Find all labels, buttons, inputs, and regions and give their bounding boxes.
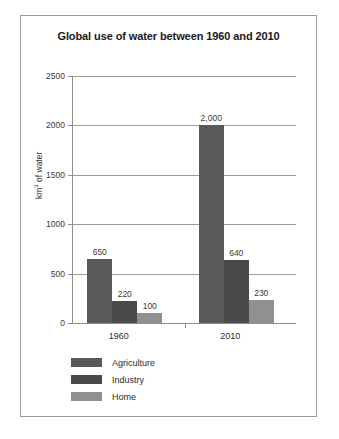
y-tick-label: 2000 <box>46 120 65 130</box>
legend-swatch-home <box>71 392 102 401</box>
gridline <box>73 224 296 225</box>
bar-home-1960: 100 <box>137 313 162 323</box>
bar-value-label: 2,000 <box>201 113 222 123</box>
x-tick-label-1960: 1960 <box>109 331 129 341</box>
legend-label-agriculture: Agriculture <box>112 358 155 368</box>
x-tick-label-2010: 2010 <box>220 331 240 341</box>
y-tick-mark <box>68 274 73 275</box>
bar-industry-1960: 220 <box>112 301 137 323</box>
y-axis-line <box>72 76 73 323</box>
gridline <box>73 125 296 126</box>
y-axis-title-exponent: 3 <box>33 184 39 187</box>
gridline <box>73 175 296 176</box>
bar-home-2010: 230 <box>249 300 274 323</box>
bar-value-label: 220 <box>118 289 132 299</box>
y-axis-title-suffix: of water <box>34 152 44 185</box>
bar-agriculture-2010: 2,000 <box>199 125 224 323</box>
y-axis-title: km3 of water <box>33 152 44 199</box>
y-tick-mark <box>68 175 73 176</box>
bar-value-label: 230 <box>254 288 268 298</box>
chart-title: Global use of water between 1960 and 201… <box>21 30 316 42</box>
plot-area: 05001000150020002500 6502201002,00064023… <box>73 76 296 323</box>
legend-item-industry: Industry <box>71 371 155 388</box>
chart-figure-frame: Global use of water between 1960 and 201… <box>20 15 317 417</box>
x-tick-mark <box>185 323 186 328</box>
y-tick-label: 1500 <box>46 170 65 180</box>
legend-item-agriculture: Agriculture <box>71 354 155 371</box>
y-tick-mark <box>68 125 73 126</box>
legend-label-industry: Industry <box>112 375 144 385</box>
legend-swatch-industry <box>71 375 102 384</box>
chart-legend: AgricultureIndustryHome <box>71 354 155 405</box>
legend-label-home: Home <box>112 392 136 402</box>
y-tick-mark <box>68 76 73 77</box>
y-tick-mark <box>68 224 73 225</box>
legend-item-home: Home <box>71 388 155 405</box>
bar-agriculture-1960: 650 <box>87 259 112 323</box>
bar-industry-2010: 640 <box>224 260 249 323</box>
y-axis-title-prefix: km <box>34 188 44 199</box>
y-tick-label: 0 <box>60 318 65 328</box>
gridline <box>73 76 296 77</box>
bar-value-label: 100 <box>143 301 157 311</box>
bar-value-label: 640 <box>229 248 243 258</box>
y-tick-mark <box>68 323 73 324</box>
bar-value-label: 650 <box>93 247 107 257</box>
y-tick-label: 1000 <box>46 219 65 229</box>
y-tick-label: 2500 <box>46 71 65 81</box>
y-tick-label: 500 <box>51 269 65 279</box>
legend-swatch-agriculture <box>71 358 102 367</box>
